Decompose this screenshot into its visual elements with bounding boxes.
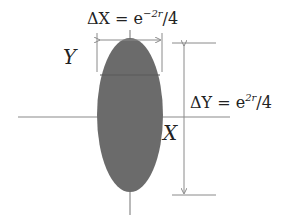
delta-x-label: ΔX = e−2r/4 [87, 8, 178, 28]
axis-x-label: X [161, 121, 178, 145]
axis-y-label: Y [63, 45, 78, 69]
diagram-canvas: ΔX = e−2r/4 ΔY = e2r/4 Y X [0, 0, 294, 224]
uncertainty-ellipse [97, 38, 163, 192]
delta-y-label: ΔY = e2r/4 [190, 92, 272, 112]
